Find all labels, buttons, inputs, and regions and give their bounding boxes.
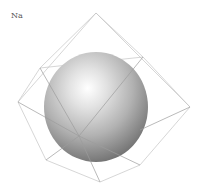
polyhedron-diagram (0, 0, 205, 189)
atom-sphere (44, 52, 148, 162)
